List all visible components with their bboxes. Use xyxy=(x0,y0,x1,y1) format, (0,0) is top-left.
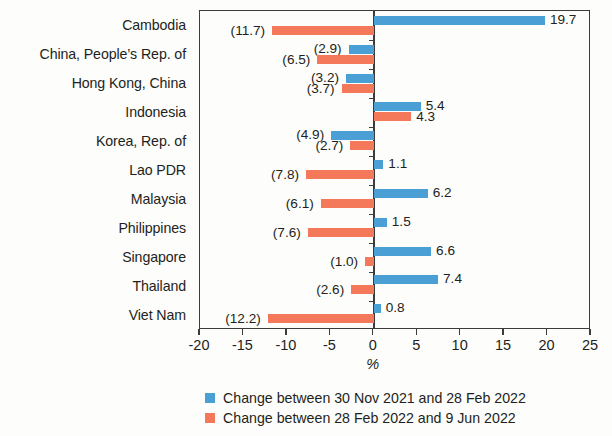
bar-orange xyxy=(317,55,373,64)
bar-orange xyxy=(350,141,373,150)
bar-value-label: (2.9) xyxy=(314,42,342,56)
bar-row: 7.4(2.6) xyxy=(200,270,589,299)
legend-swatch-blue xyxy=(205,393,215,403)
bar-row: 19.7(11.7) xyxy=(200,11,589,40)
bar-value-label: 6.6 xyxy=(436,244,455,258)
x-tick xyxy=(546,329,547,335)
bar-row: (2.9)(6.5) xyxy=(200,40,589,69)
bar-blue xyxy=(374,16,545,25)
x-tick-label: 0 xyxy=(369,337,377,353)
bar-value-label: (7.6) xyxy=(273,226,301,240)
chart-legend: Change between 30 Nov 2021 and 28 Feb 20… xyxy=(205,388,605,428)
legend-item: Change between 30 Nov 2021 and 28 Feb 20… xyxy=(205,388,605,408)
bar-row: (4.9)(2.7) xyxy=(200,126,589,155)
category-label: Cambodia xyxy=(0,10,193,39)
category-label: Philippines xyxy=(0,213,193,242)
category-label: Thailand xyxy=(0,271,193,300)
bar-orange xyxy=(321,199,374,208)
x-tick-label: 20 xyxy=(538,337,554,353)
x-tick xyxy=(459,329,460,335)
zero-axis-tick xyxy=(369,301,374,302)
x-axis-tick-labels: -20-15-10-50510152025 xyxy=(199,337,590,357)
bar-blue xyxy=(374,189,428,198)
bar-value-label: 7.4 xyxy=(443,272,462,286)
x-tick xyxy=(589,329,590,335)
legend-swatch-orange xyxy=(205,413,215,423)
x-tick-label: 25 xyxy=(582,337,598,353)
zero-axis-tick xyxy=(369,156,374,157)
bar-value-label: (2.7) xyxy=(315,139,343,153)
bar-value-label: 1.1 xyxy=(388,157,407,171)
category-axis-labels: CambodiaChina, People’s Rep. ofHong Kong… xyxy=(0,10,193,329)
bar-value-label: (2.6) xyxy=(316,283,344,297)
bar-orange xyxy=(374,112,411,121)
bar-row: 6.6(1.0) xyxy=(200,242,589,271)
legend-label: Change between 30 Nov 2021 and 28 Feb 20… xyxy=(223,390,526,406)
bar-orange xyxy=(308,228,374,237)
x-tick xyxy=(329,329,330,335)
legend-label: Change between 28 Feb 2022 and 9 Jun 202… xyxy=(223,410,516,426)
bar-row: (3.2)(3.7) xyxy=(200,69,589,98)
x-tick xyxy=(198,329,199,335)
bar-chart: CambodiaChina, People’s Rep. ofHong Kong… xyxy=(0,0,612,436)
bar-value-label: (3.7) xyxy=(307,82,335,96)
x-tick-label: 5 xyxy=(412,337,420,353)
bar-row: 1.1(7.8) xyxy=(200,155,589,184)
zero-axis-tick xyxy=(369,69,374,70)
category-label: China, People’s Rep. of xyxy=(0,39,193,68)
x-tick xyxy=(416,329,417,335)
category-label: Indonesia xyxy=(0,97,193,126)
bar-row: 1.5(7.6) xyxy=(200,213,589,242)
category-label: Singapore xyxy=(0,242,193,271)
bar-value-label: 6.2 xyxy=(433,186,452,200)
bar-value-label: (6.5) xyxy=(282,53,310,67)
bar-blue xyxy=(374,275,438,284)
zero-axis-tick xyxy=(369,98,374,99)
zero-axis-tick xyxy=(369,127,374,128)
category-label: Malaysia xyxy=(0,184,193,213)
bar-value-label: (1.0) xyxy=(330,255,358,269)
bar-value-label: (6.1) xyxy=(286,197,314,211)
bar-orange xyxy=(306,170,374,179)
x-tick xyxy=(502,329,503,335)
bar-blue xyxy=(374,218,387,227)
bar-value-label: 0.8 xyxy=(386,301,405,315)
bar-row: 5.44.3 xyxy=(200,97,589,126)
bar-blue xyxy=(349,45,374,54)
x-tick-label: 15 xyxy=(495,337,511,353)
bar-orange xyxy=(365,257,374,266)
bar-value-label: (12.2) xyxy=(225,312,261,326)
bar-blue xyxy=(374,247,431,256)
x-tick-label: -10 xyxy=(275,337,296,353)
bar-blue xyxy=(346,74,374,83)
x-tick xyxy=(242,329,243,335)
x-tick xyxy=(285,329,286,335)
bar-row: 6.2(6.1) xyxy=(200,184,589,213)
category-label: Viet Nam xyxy=(0,300,193,329)
category-label: Lao PDR xyxy=(0,155,193,184)
zero-axis-tick xyxy=(369,272,374,273)
bar-row: 0.8(12.2) xyxy=(200,299,589,328)
x-tick-label: -20 xyxy=(189,337,210,353)
bar-blue xyxy=(374,102,421,111)
bar-blue xyxy=(374,304,381,313)
plot-area: 19.7(11.7)(2.9)(6.5)(3.2)(3.7)5.44.3(4.9… xyxy=(199,10,590,329)
x-axis-title-text: % xyxy=(366,356,379,372)
zero-axis-tick xyxy=(369,243,374,244)
bar-value-label: 4.3 xyxy=(416,110,435,124)
x-tick-label: 10 xyxy=(452,337,468,353)
bar-value-label: (11.7) xyxy=(231,24,266,38)
bar-orange xyxy=(351,285,374,294)
x-tick-label: -15 xyxy=(232,337,253,353)
x-tick xyxy=(372,329,373,335)
zero-axis-tick xyxy=(369,185,374,186)
bar-blue xyxy=(374,160,384,169)
bar-orange xyxy=(342,84,374,93)
bar-orange xyxy=(272,26,374,35)
category-label: Korea, Rep. of xyxy=(0,126,193,155)
bar-orange xyxy=(268,314,374,323)
bar-value-label: 1.5 xyxy=(392,215,411,229)
bar-value-label: (7.8) xyxy=(271,168,299,182)
bar-rows: 19.7(11.7)(2.9)(6.5)(3.2)(3.7)5.44.3(4.9… xyxy=(200,11,589,328)
category-label: Hong Kong, China xyxy=(0,68,193,97)
